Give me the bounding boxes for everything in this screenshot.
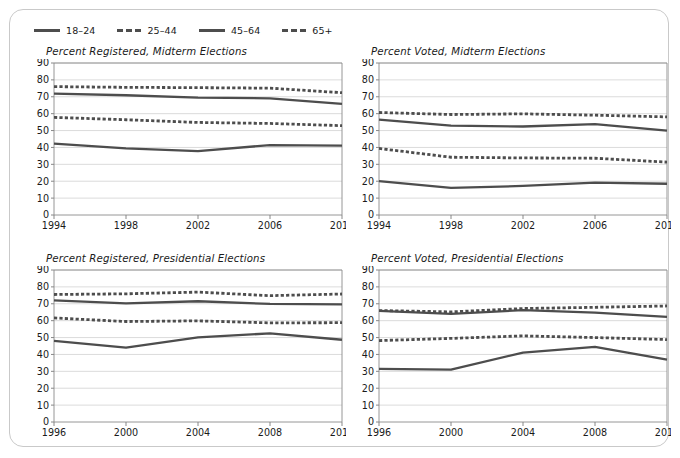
y-tick-label: 70 — [37, 298, 49, 309]
y-tick-label: 90 — [37, 59, 49, 68]
x-tick-label: 1996 — [42, 427, 66, 438]
y-tick-label: 10 — [362, 400, 374, 411]
series-line-45-64 — [379, 120, 667, 131]
legend-label-65-plus: 65+ — [312, 25, 332, 36]
x-tick-label: 2000 — [439, 427, 463, 438]
figure-frame: 18–24 25–44 45–64 65+ Percent Registered… — [9, 9, 669, 447]
y-tick-label: 20 — [37, 176, 49, 187]
y-tick-label: 70 — [362, 91, 374, 102]
y-tick-label: 90 — [37, 266, 49, 275]
y-tick-label: 0 — [368, 416, 374, 427]
y-tick-label: 30 — [362, 366, 374, 377]
x-tick-label: 2004 — [186, 427, 210, 438]
plot-registered-presidential: 010203040506070809019962000200420082012 — [28, 266, 346, 442]
series-line-65- — [379, 112, 667, 116]
y-tick-label: 70 — [362, 298, 374, 309]
legend-swatch-18-24-icon — [34, 29, 60, 32]
series-line-18-24 — [379, 347, 667, 370]
legend-swatch-25-44-icon — [117, 29, 141, 32]
panel-registered-presidential: Percent Registered, Presidential Electio… — [28, 253, 346, 449]
x-tick-label: 2002 — [186, 220, 210, 231]
x-tick-label: 2010 — [330, 220, 346, 231]
y-tick-label: 40 — [37, 142, 49, 153]
y-tick-label: 30 — [37, 366, 49, 377]
y-tick-label: 70 — [37, 91, 49, 102]
y-tick-label: 50 — [362, 125, 374, 136]
y-tick-label: 40 — [37, 349, 49, 360]
chart-svg: 010203040506070809019941998200220062010 — [28, 59, 346, 235]
y-tick-label: 60 — [362, 315, 374, 326]
x-tick-label: 1996 — [367, 427, 391, 438]
y-tick-label: 0 — [43, 209, 49, 220]
x-tick-label: 2008 — [583, 427, 607, 438]
x-tick-label: 1994 — [367, 220, 391, 231]
panel-voted-presidential: Percent Voted, Presidential Elections 01… — [353, 253, 671, 449]
y-tick-label: 90 — [362, 59, 374, 68]
legend-swatch-45-64-icon — [199, 29, 225, 32]
y-tick-label: 60 — [37, 315, 49, 326]
y-tick-label: 10 — [37, 193, 49, 204]
series-line-18-24 — [379, 181, 667, 188]
panel-title-voted-midterm: Percent Voted, Midterm Elections — [371, 46, 671, 57]
y-tick-label: 80 — [362, 74, 374, 85]
series-line-25-44 — [379, 148, 667, 162]
legend-item-45-64: 45–64 — [199, 25, 260, 36]
legend-label-25-44: 25–44 — [147, 25, 176, 36]
y-tick-label: 40 — [362, 142, 374, 153]
chart-svg: 010203040506070809019962000200420082012 — [353, 266, 671, 442]
x-tick-label: 2006 — [583, 220, 607, 231]
y-tick-label: 20 — [362, 383, 374, 394]
age-group-legend: 18–24 25–44 45–64 65+ — [34, 22, 355, 38]
x-tick-label: 2002 — [511, 220, 535, 231]
panel-title-voted-presidential: Percent Voted, Presidential Elections — [371, 253, 671, 264]
y-tick-label: 10 — [362, 193, 374, 204]
x-tick-label: 1998 — [114, 220, 138, 231]
x-tick-label: 2012 — [655, 427, 671, 438]
x-tick-label: 2008 — [258, 427, 282, 438]
y-tick-label: 50 — [362, 332, 374, 343]
panel-title-registered-midterm: Percent Registered, Midterm Elections — [46, 46, 346, 57]
x-tick-label: 2004 — [511, 427, 535, 438]
legend-swatch-65-plus-icon — [282, 29, 306, 32]
series-line-25-44 — [54, 117, 342, 125]
plot-voted-midterm: 010203040506070809019941998200220062010 — [353, 59, 671, 235]
x-tick-label: 1998 — [439, 220, 463, 231]
y-tick-label: 80 — [362, 281, 374, 292]
chart-svg: 010203040506070809019962000200420082012 — [28, 266, 346, 442]
y-tick-label: 60 — [37, 108, 49, 119]
panel-title-registered-presidential: Percent Registered, Presidential Electio… — [46, 253, 346, 264]
y-tick-label: 20 — [362, 176, 374, 187]
y-tick-label: 30 — [362, 159, 374, 170]
y-tick-label: 0 — [368, 209, 374, 220]
plot-registered-midterm: 010203040506070809019941998200220062010 — [28, 59, 346, 235]
y-tick-label: 0 — [43, 416, 49, 427]
legend-label-45-64: 45–64 — [231, 25, 260, 36]
y-tick-label: 60 — [362, 108, 374, 119]
x-tick-label: 2006 — [258, 220, 282, 231]
plot-voted-presidential: 010203040506070809019962000200420082012 — [353, 266, 671, 442]
x-tick-label: 2010 — [655, 220, 671, 231]
legend-item-25-44: 25–44 — [117, 25, 176, 36]
y-tick-label: 10 — [37, 400, 49, 411]
series-line-65- — [54, 292, 342, 296]
x-tick-label: 2000 — [114, 427, 138, 438]
y-tick-label: 80 — [37, 74, 49, 85]
y-tick-label: 50 — [37, 332, 49, 343]
legend-item-18-24: 18–24 — [34, 25, 95, 36]
legend-item-65-plus: 65+ — [282, 25, 332, 36]
series-line-65- — [54, 87, 342, 93]
y-tick-label: 40 — [362, 349, 374, 360]
y-tick-label: 90 — [362, 266, 374, 275]
legend-label-18-24: 18–24 — [66, 25, 95, 36]
y-tick-label: 30 — [37, 159, 49, 170]
x-tick-label: 2012 — [330, 427, 346, 438]
panel-registered-midterm: Percent Registered, Midterm Elections 01… — [28, 46, 346, 238]
series-line-18-24 — [54, 333, 342, 347]
series-line-45-64 — [54, 94, 342, 104]
y-tick-label: 50 — [37, 125, 49, 136]
y-tick-label: 80 — [37, 281, 49, 292]
panel-voted-midterm: Percent Voted, Midterm Elections 0102030… — [353, 46, 671, 238]
chart-svg: 010203040506070809019941998200220062010 — [353, 59, 671, 235]
series-line-25-44 — [379, 336, 667, 341]
x-tick-label: 1994 — [42, 220, 66, 231]
